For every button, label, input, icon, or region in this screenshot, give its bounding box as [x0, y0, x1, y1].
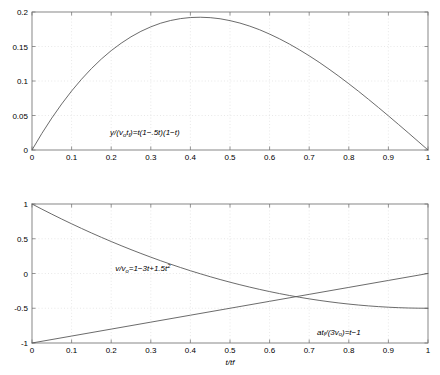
y-tick-label: 0.15 [12, 43, 28, 52]
x-tick-label: 1 [426, 153, 431, 162]
x-tick-label: 0.3 [145, 153, 157, 162]
y-tick-label: -1 [21, 339, 29, 348]
figure-background [0, 0, 440, 375]
x-tick-label: 0 [30, 153, 35, 162]
x-tick-label: 0.8 [343, 346, 355, 355]
y-tick-label: 1 [24, 200, 29, 209]
x-tick-label: 0.6 [264, 346, 276, 355]
physics-plot-figure: 00.10.20.30.40.50.60.70.80.9100.050.10.1… [0, 0, 440, 375]
velocity-equation: v/vo=1−3t+1.5t2 [115, 263, 171, 274]
y-tick-label: -0.5 [14, 304, 28, 313]
x-tick-label: 0.7 [304, 153, 316, 162]
x-tick-label: 0.6 [264, 153, 276, 162]
x-tick-label: 0.5 [224, 153, 236, 162]
x-tick-label: 0.9 [383, 346, 395, 355]
x-tick-label: 0.9 [383, 153, 395, 162]
y-tick-label: 0.5 [17, 235, 29, 244]
y-tick-label: 0 [24, 146, 29, 155]
x-tick-label: 0.3 [145, 346, 157, 355]
x-tick-label: 0 [30, 346, 35, 355]
y-tick-label: 0.05 [12, 112, 28, 121]
x-tick-label: 1 [426, 346, 431, 355]
x-tick-label: 0.5 [224, 346, 236, 355]
x-axis-label: t/tf [226, 358, 236, 367]
y-tick-label: 0.1 [17, 77, 29, 86]
x-tick-label: 0.4 [185, 153, 197, 162]
y-tick-label: 0.2 [17, 8, 29, 17]
x-tick-label: 0.1 [66, 153, 78, 162]
x-tick-label: 0.2 [106, 346, 118, 355]
y-tick-label: 0 [24, 270, 29, 279]
x-tick-label: 0.2 [106, 153, 118, 162]
x-tick-label: 0.8 [343, 153, 355, 162]
position-equation: y/(votf)=t(1−.5t)(1−t) [109, 128, 180, 138]
x-tick-label: 0.4 [185, 346, 197, 355]
x-tick-label: 0.7 [304, 346, 316, 355]
x-tick-label: 0.1 [66, 346, 78, 355]
